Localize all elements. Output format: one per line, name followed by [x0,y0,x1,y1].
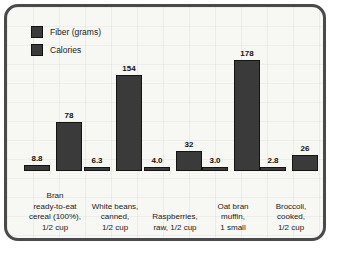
bar-calories [234,60,260,171]
value-label-calories: 178 [234,49,260,58]
value-label-calories: 26 [292,144,318,153]
bar-calories [116,75,142,171]
chart-frame: Fiber (grams) Calories 8.878Bran ready-t… [4,4,326,241]
bar-fiber [144,167,170,171]
value-label-fiber: 2.8 [260,156,286,165]
value-label-calories: 32 [176,140,202,149]
bar-fiber [202,167,228,171]
bar-calories [176,151,202,171]
plot-area: 8.878Bran ready-to-eat cereal (100%), 1/… [7,7,323,238]
value-label-fiber: 8.8 [24,154,50,163]
bar-fiber [260,167,286,171]
value-label-calories: 78 [56,111,82,120]
value-label-fiber: 6.3 [84,156,110,165]
x-axis-label: Broccoli, cooked, 1/2 cup [252,202,326,234]
bar-group: 6.3154White beans, canned, 1/2 cup [84,7,146,238]
value-label-fiber: 3.0 [202,156,228,165]
value-label-fiber: 4.0 [144,156,170,165]
bar-group: 2.826Broccoli, cooked, 1/2 cup [260,7,322,238]
bar-fiber [84,167,110,171]
bar-calories [292,155,318,171]
value-label-calories: 154 [116,64,142,73]
bar-calories [56,122,82,171]
bar-fiber [24,165,50,171]
